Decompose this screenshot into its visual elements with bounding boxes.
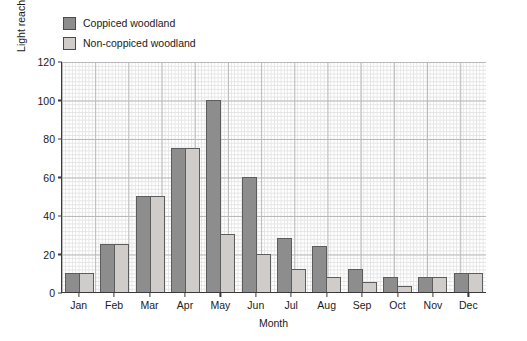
bar-nov-coppiced xyxy=(418,277,433,292)
bar-jan-non-coppiced xyxy=(79,273,94,292)
x-axis-tick-apr: Apr xyxy=(167,293,202,315)
bar-may-coppiced xyxy=(206,100,221,293)
legend-swatch-icon-coppiced xyxy=(63,17,76,30)
bar-jul-non-coppiced xyxy=(291,269,306,292)
bar-group-apr xyxy=(168,62,203,292)
legend-item-non-coppiced-woodland: Non-coppiced woodland xyxy=(63,34,293,52)
x-axis-tick-label: Jul xyxy=(274,299,309,311)
bar-mar-coppiced xyxy=(136,196,151,292)
bar-series-container xyxy=(62,62,486,292)
y-axis-tick-label: 0 xyxy=(49,288,58,299)
y-axis-tick: 80 xyxy=(43,134,62,145)
bar-sep-coppiced xyxy=(348,269,363,292)
y-axis-tick: 100 xyxy=(37,95,62,106)
bar-group-nov xyxy=(415,62,450,292)
x-axis-title: Month xyxy=(61,317,486,329)
x-axis-tick-mark xyxy=(291,293,292,297)
bar-feb-non-coppiced xyxy=(114,244,129,292)
x-axis-tick-jun: Jun xyxy=(238,293,273,315)
legend-label-coppiced: Coppiced woodland xyxy=(83,17,175,30)
legend-item-coppiced-woodland: Coppiced woodland xyxy=(63,14,293,32)
y-axis-tick: 20 xyxy=(43,249,62,260)
plot-area: 020406080100120 xyxy=(61,62,486,293)
x-axis-tick-label: Feb xyxy=(96,299,131,311)
x-axis-tick-mark xyxy=(397,293,398,297)
bar-oct-coppiced xyxy=(383,277,398,292)
x-axis-tick-mar: Mar xyxy=(132,293,167,315)
x-axis-tick-feb: Feb xyxy=(96,293,131,315)
x-axis-tick-oct: Oct xyxy=(380,293,415,315)
bar-group-aug xyxy=(309,62,344,292)
y-axis-tick-label: 60 xyxy=(43,172,58,183)
x-axis-tick-label: May xyxy=(203,299,238,311)
bar-sep-non-coppiced xyxy=(362,282,377,292)
bar-jul-coppiced xyxy=(277,238,292,292)
bar-oct-non-coppiced xyxy=(397,286,412,292)
x-axis-tick-mark xyxy=(220,293,221,297)
bar-group-feb xyxy=(97,62,132,292)
x-axis-tick-mark xyxy=(114,293,115,297)
x-axis-tick-label: Jan xyxy=(61,299,96,311)
bar-aug-non-coppiced xyxy=(326,277,341,292)
x-axis-tick-mark xyxy=(326,293,327,297)
x-axis-tick-jul: Jul xyxy=(274,293,309,315)
y-axis-tick-label: 80 xyxy=(43,134,58,145)
y-axis-tick-label: 20 xyxy=(43,249,58,260)
x-axis-tick-label: Sep xyxy=(344,299,379,311)
x-axis-tick-label: Apr xyxy=(167,299,202,311)
x-axis-tick-mark xyxy=(255,293,256,297)
x-axis-tick-aug: Aug xyxy=(309,293,344,315)
x-axis-tick-mark xyxy=(432,293,433,297)
bar-dec-non-coppiced xyxy=(468,273,483,292)
chart-legend: Coppiced woodland Non-coppiced woodland xyxy=(63,14,293,54)
y-axis-tick: 120 xyxy=(37,57,62,68)
x-axis-tick-dec: Dec xyxy=(451,293,486,315)
x-axis-tick-label: Jun xyxy=(238,299,273,311)
x-axis-tick-mark xyxy=(184,293,185,297)
bar-apr-non-coppiced xyxy=(185,148,200,292)
bar-jun-non-coppiced xyxy=(256,254,271,293)
bar-chart-figure: Coppiced woodland Non-coppiced woodland … xyxy=(0,0,527,341)
bar-feb-coppiced xyxy=(100,244,115,292)
y-axis-tick-label: 40 xyxy=(43,211,58,222)
legend-swatch-icon-non-coppiced xyxy=(63,37,76,50)
y-axis-title-container: Light reaching wood floor/arbitrary unit… xyxy=(14,62,28,294)
y-axis-title: Light reaching wood floor/arbitrary unit… xyxy=(14,0,28,76)
bar-group-jun xyxy=(239,62,274,292)
x-axis-tick-label: Nov xyxy=(415,299,450,311)
y-axis-tick: 40 xyxy=(43,211,62,222)
x-axis-tick-sep: Sep xyxy=(344,293,379,315)
y-axis-tick: 60 xyxy=(43,172,62,183)
bar-may-non-coppiced xyxy=(220,234,235,292)
bar-group-mar xyxy=(133,62,168,292)
x-axis-tick-mark xyxy=(468,293,469,297)
x-axis-tick-mark xyxy=(149,293,150,297)
x-axis-tick-label: Oct xyxy=(380,299,415,311)
bar-apr-coppiced xyxy=(171,148,186,292)
bar-group-jan xyxy=(62,62,97,292)
bar-jan-coppiced xyxy=(65,273,80,292)
y-axis-tick-label: 100 xyxy=(37,95,58,106)
x-axis-tick-nov: Nov xyxy=(415,293,450,315)
bar-jun-coppiced xyxy=(242,177,257,293)
bar-dec-coppiced xyxy=(454,273,469,292)
bar-mar-non-coppiced xyxy=(150,196,165,292)
x-axis-tick-jan: Jan xyxy=(61,293,96,315)
x-axis-tick-label: Aug xyxy=(309,299,344,311)
bar-group-sep xyxy=(345,62,380,292)
bar-group-oct xyxy=(380,62,415,292)
x-axis-tick-mark xyxy=(78,293,79,297)
x-axis-tick-label: Dec xyxy=(451,299,486,311)
bar-group-jul xyxy=(274,62,309,292)
y-axis-tick-label: 120 xyxy=(37,57,58,68)
bar-group-dec xyxy=(451,62,486,292)
x-axis-ticks: JanFebMarAprMayJunJulAugSepOctNovDec xyxy=(61,293,486,315)
x-axis-tick-mark xyxy=(361,293,362,297)
bar-group-may xyxy=(203,62,238,292)
x-axis-tick-may: May xyxy=(203,293,238,315)
bar-nov-non-coppiced xyxy=(432,277,447,292)
x-axis-tick-label: Mar xyxy=(132,299,167,311)
bar-aug-coppiced xyxy=(312,246,327,292)
legend-label-non-coppiced: Non-coppiced woodland xyxy=(83,37,196,50)
